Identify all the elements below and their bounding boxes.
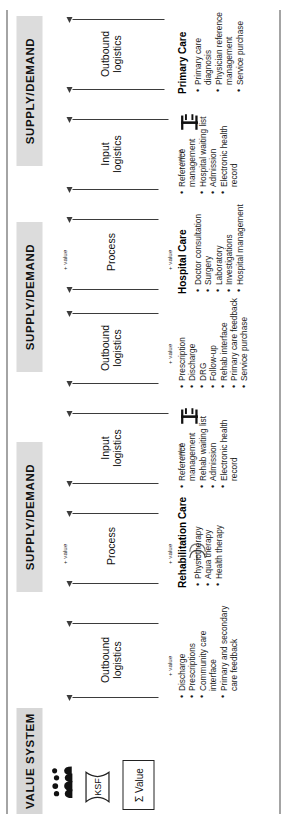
list-item: Investigations	[223, 200, 233, 292]
plus-value-label: + value	[165, 250, 172, 270]
list-item: Surgery	[202, 200, 212, 292]
list-item: Reference management	[176, 396, 197, 488]
list-item: Hospital waiting list	[197, 102, 207, 194]
band-label: VALUE SYSTEM	[23, 713, 35, 809]
list-item: Service purchase	[234, 2, 244, 92]
stage-label: Input logistics	[98, 418, 122, 478]
list-item: Health therapy	[213, 494, 223, 586]
list-item: Laboratory	[213, 200, 223, 292]
people-icon	[50, 762, 76, 800]
diagram-canvas: VALUE SYSTEM SUPPLY/DEMAND SUPPLY/DEMAND…	[0, 0, 285, 828]
list-item: Physician reference management	[213, 2, 234, 92]
list-item: DRG	[197, 296, 207, 388]
band-value-system: VALUE SYSTEM	[16, 708, 42, 814]
plus-value-label: + value	[60, 544, 67, 564]
list-item: Follow-up	[207, 296, 217, 388]
stage-process-rehab: Process + value + value	[0, 500, 285, 592]
list-item: Hospital management	[234, 200, 244, 292]
stage-input-logistics-rehab: Input logistics + value	[0, 400, 285, 492]
plus-value-label: + value	[60, 250, 67, 270]
list-item: Physiotherapy	[192, 494, 202, 586]
list-item: Primary care feedback	[228, 296, 238, 388]
list-item: Reference management	[176, 102, 197, 194]
list-item: Electronic health record	[218, 396, 239, 488]
list-item: Aqua therapy	[202, 494, 212, 586]
stage-label: Outbound logistics	[98, 24, 122, 84]
stage-label: Process	[104, 516, 116, 576]
ksf-symbol: KSF	[84, 770, 110, 804]
plus-value-label: + value	[165, 544, 172, 564]
stage-label: Input logistics	[98, 124, 122, 184]
stage-outbound-logistics-3: Outbound logistics + value	[0, 612, 285, 708]
plus-value-label: + value	[165, 344, 172, 364]
list-item: Service purchase	[238, 296, 248, 388]
list-item: Discharge	[186, 296, 196, 388]
stage-label: Outbound logistics	[98, 630, 122, 690]
primary-care-title: Primary Care	[176, 32, 187, 94]
primary-care-outputs: Reference management Hospital waiting li…	[176, 102, 238, 194]
hospital-care-outputs: Prescription Discharge DRG Follow-up Reh…	[176, 296, 249, 388]
sum-value-box: Σ Value	[122, 760, 154, 810]
list-item: Prescriptions	[186, 602, 196, 698]
list-item: Primary care diagnosis	[192, 2, 213, 92]
list-item: Doctor consultation	[192, 200, 202, 292]
list-item: Primary and secondary care feedback	[218, 602, 239, 698]
list-item: Discharge	[176, 602, 186, 698]
ksf-label: KSF	[84, 770, 110, 804]
list-item: Electronic health record	[218, 102, 239, 194]
list-item: Prescription	[176, 296, 186, 388]
list-item: Community care interface	[197, 602, 218, 698]
list-item: Admission	[207, 396, 217, 488]
rehab-care-title: Rehabilitation Care	[176, 497, 187, 588]
sum-value-label: Σ Value	[133, 768, 144, 802]
plus-value-label: + value	[165, 656, 172, 676]
list-item: Rehab interface	[218, 296, 228, 388]
rehab-care-inputs: Physiotherapy Aqua therapy Health therap…	[192, 494, 223, 586]
stage-label: Process	[104, 222, 116, 282]
stage-input-logistics-hospital: Input logistics + value	[0, 106, 285, 198]
rehab-care-outputs: Discharge Prescriptions Community care i…	[176, 602, 238, 698]
stage-label: Outbound logistics	[98, 318, 122, 378]
hospital-care-title: Hospital Care	[176, 230, 187, 294]
rehab-care-input-sources: Reference management Rehab waiting list …	[176, 396, 238, 488]
list-item: Admission	[207, 102, 217, 194]
primary-care-inputs: Primary care diagnosis Physician referen…	[192, 2, 244, 92]
hospital-care-inputs: Doctor consultation Surgery Laboratory I…	[192, 200, 244, 292]
list-item: Rehab waiting list	[197, 396, 207, 488]
